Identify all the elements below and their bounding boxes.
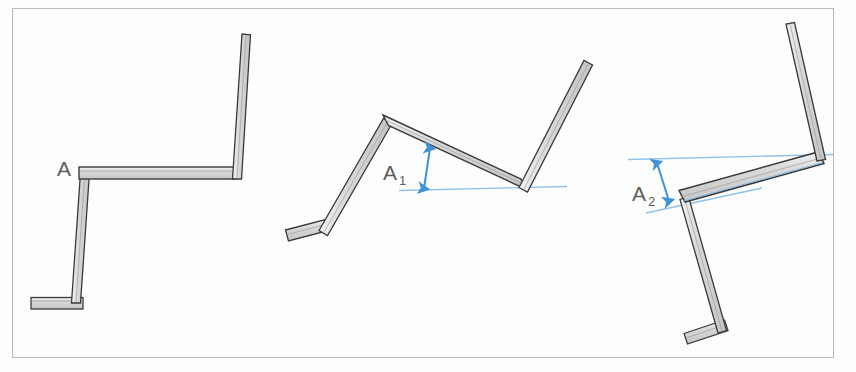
position-2-linkage: A 1 [286, 61, 593, 242]
diagram-stage: A 1 [0, 0, 856, 372]
dimension-arrow-a1 [424, 148, 430, 189]
label-a2: A 2 [632, 182, 655, 209]
position-3-upper-mast [786, 23, 826, 162]
label-a: A [57, 157, 72, 180]
label-a-text: A [57, 157, 72, 180]
linkage-diagram: A 1 [0, 0, 856, 372]
position-1-upper-mast [233, 34, 251, 179]
label-a1: A 1 [383, 161, 406, 188]
position-3-horizontal-arm [679, 152, 824, 202]
label-a2-text: A [632, 182, 647, 205]
position-1-lower-post [72, 173, 90, 304]
position-1-horizontal-arm [79, 167, 235, 179]
dimension-arrow-a2 [657, 163, 669, 201]
position-2-upper-mast [519, 61, 593, 193]
label-a2-subscript: 2 [648, 194, 655, 209]
label-a1-subscript: 1 [399, 173, 406, 188]
label-a1-text: A [383, 161, 398, 184]
position-3-lower-post [680, 197, 727, 334]
position-2-lower-post [319, 119, 392, 236]
position-3-linkage: A 2 [628, 23, 833, 345]
